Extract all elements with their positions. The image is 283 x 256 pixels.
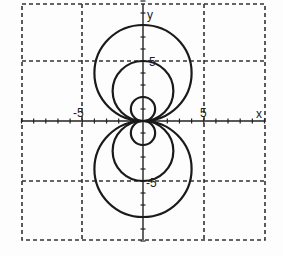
polar-graph: y x -5 5 5 -5 — [0, 0, 283, 256]
y-axis-label: y — [147, 8, 153, 22]
x-tick-label-pos5: 5 — [200, 106, 207, 120]
y-tick-label-neg5: -5 — [146, 176, 157, 190]
x-axis-label: x — [256, 107, 262, 121]
y-tick-label-pos5: 5 — [149, 55, 156, 69]
x-tick-label-neg5: -5 — [73, 106, 84, 120]
